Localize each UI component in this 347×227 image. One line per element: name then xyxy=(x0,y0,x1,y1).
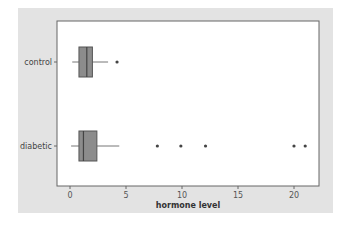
category-label: diabetic xyxy=(20,142,52,151)
x-axis-title: hormone level xyxy=(156,201,221,210)
category-label: control xyxy=(24,58,52,67)
outlier-point xyxy=(292,144,295,147)
x-tick-label: 5 xyxy=(123,191,128,200)
outlier-point xyxy=(179,144,182,147)
outlier-point xyxy=(304,144,307,147)
outlier-point xyxy=(204,144,207,147)
x-axis: 05101520 xyxy=(67,186,299,200)
boxplot-chart: 05101520 controldiabetic hormone level xyxy=(0,0,347,227)
x-tick-label: 10 xyxy=(177,191,187,200)
x-tick-label: 15 xyxy=(233,191,243,200)
outlier-point xyxy=(115,60,118,63)
iqr-box xyxy=(79,47,92,77)
x-tick-label: 20 xyxy=(289,191,299,200)
outlier-point xyxy=(156,144,159,147)
x-tick-label: 0 xyxy=(67,191,72,200)
iqr-box xyxy=(79,131,97,161)
